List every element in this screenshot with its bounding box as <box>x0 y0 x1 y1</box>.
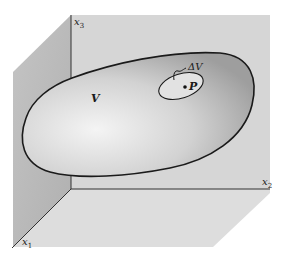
point-p-marker <box>183 85 187 89</box>
region-v-label: V <box>91 92 101 105</box>
volume-diagram: x3 x2 x1 V ΔV P <box>0 0 284 257</box>
point-p-label: P <box>188 80 198 93</box>
delta-v-label: ΔV <box>187 61 204 72</box>
